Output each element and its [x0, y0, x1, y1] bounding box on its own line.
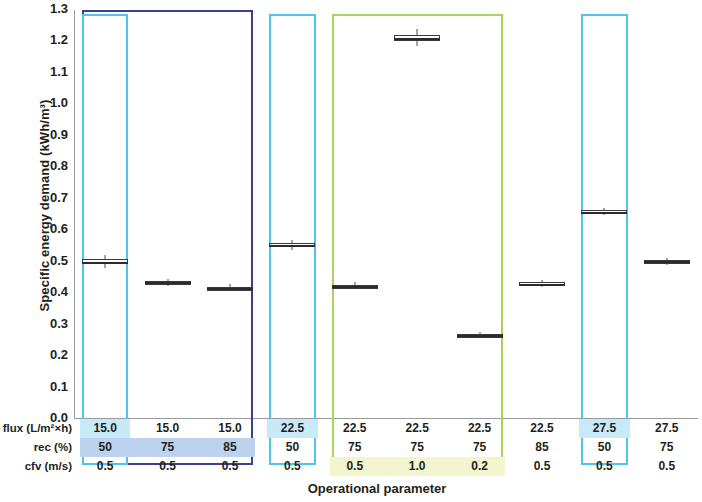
boxplot-median-line: [332, 286, 378, 288]
boxplot-median-line: [644, 261, 690, 263]
boxplot-marker: [207, 10, 253, 419]
param-cell-cfv-0: 0.5: [74, 457, 136, 476]
param-row-label-rec: rec (%): [0, 438, 72, 457]
param-cell-cfv-1: 0.5: [136, 457, 198, 476]
y-tick-label: 0.6: [24, 221, 68, 236]
param-cell-rec-4: 75: [324, 438, 386, 457]
y-tick-label: 0.1: [24, 379, 68, 394]
boxplot-marker: [394, 10, 440, 419]
param-cell-flux-4: 22.5: [324, 419, 386, 438]
boxplot-median-line: [269, 245, 315, 247]
boxplot-marker: [581, 10, 627, 419]
param-cell-rec-3: 50: [261, 438, 323, 457]
boxplot-median-line: [394, 38, 440, 40]
y-tick-label: 1.3: [24, 1, 68, 16]
param-cell-rec-2: 85: [199, 438, 261, 457]
param-cell-rec-1: 75: [136, 438, 198, 457]
y-tick-label: 0.3: [24, 316, 68, 331]
param-cell-flux-2: 15.0: [199, 419, 261, 438]
y-tick-label: 1.0: [24, 95, 68, 110]
boxplot-median-line: [457, 335, 503, 337]
param-cell-flux-1: 15.0: [136, 419, 198, 438]
param-cell-flux-6: 22.5: [448, 419, 510, 438]
param-cell-rec-7: 85: [511, 438, 573, 457]
y-tick-label: 1.2: [24, 32, 68, 47]
param-cell-rec-0: 50: [74, 438, 136, 457]
plot-area: [74, 10, 698, 419]
boxplot-marker: [332, 10, 378, 419]
boxplot-marker: [269, 10, 315, 419]
y-tick-label: 0.2: [24, 347, 68, 362]
param-cell-flux-7: 22.5: [511, 419, 573, 438]
param-cell-cfv-2: 0.5: [199, 457, 261, 476]
param-cell-flux-9: 27.5: [636, 419, 698, 438]
boxplot-marker: [644, 10, 690, 419]
param-cell-cfv-4: 0.5: [324, 457, 386, 476]
y-tick-label: 0.7: [24, 190, 68, 205]
param-cell-flux-5: 22.5: [386, 419, 448, 438]
param-cell-rec-8: 50: [573, 438, 635, 457]
param-cell-cfv-5: 1.0: [386, 457, 448, 476]
boxplot-median-line: [207, 288, 253, 290]
param-cell-flux-3: 22.5: [261, 419, 323, 438]
param-cell-flux-0: 15.0: [74, 419, 136, 438]
param-row-label-cfv: cfv (m/s): [0, 457, 72, 476]
boxplot-median-line: [82, 262, 128, 264]
boxplot-median-line: [145, 282, 191, 284]
chart-figure: Specific energy demand (kWh/m³) 1.31.21.…: [0, 0, 702, 502]
boxplot-marker: [82, 10, 128, 419]
param-cell-cfv-7: 0.5: [511, 457, 573, 476]
y-tick-label: 0.4: [24, 284, 68, 299]
param-cell-cfv-6: 0.2: [448, 457, 510, 476]
param-cell-rec-5: 75: [386, 438, 448, 457]
boxplot-marker: [145, 10, 191, 419]
param-cell-rec-6: 75: [448, 438, 510, 457]
y-tick-label: 1.1: [24, 64, 68, 79]
param-cell-rec-9: 75: [636, 438, 698, 457]
boxplot-median-line: [581, 212, 627, 214]
param-cell-cfv-3: 0.5: [261, 457, 323, 476]
x-axis-title-text: Operational parameter: [256, 481, 447, 496]
y-tick-label: 0.9: [24, 127, 68, 142]
x-axis-title: Operational parameter: [0, 481, 702, 496]
y-tick-label: 0.5: [24, 253, 68, 268]
boxplot-marker: [519, 10, 565, 419]
param-cell-cfv-8: 0.5: [573, 457, 635, 476]
param-cell-cfv-9: 0.5: [636, 457, 698, 476]
boxplot-marker: [457, 10, 503, 419]
parameter-table: flux (L/m²×h)rec (%)cfv (m/s)15.0500.515…: [0, 419, 702, 477]
y-tick-label: 0.8: [24, 158, 68, 173]
boxplot-median-line: [519, 284, 565, 286]
param-cell-flux-8: 27.5: [573, 419, 635, 438]
param-row-label-flux: flux (L/m²×h): [0, 419, 72, 438]
